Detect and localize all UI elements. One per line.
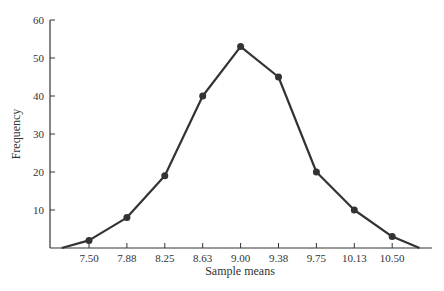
y-tick-label: 60	[33, 14, 45, 26]
x-tick-label: 7.88	[117, 252, 137, 264]
y-tick-label: 50	[33, 52, 45, 64]
data-point-marker	[86, 237, 93, 244]
data-point-marker	[275, 74, 282, 81]
x-tick-label: 10.13	[342, 252, 367, 264]
x-tick-label: 8.63	[193, 252, 213, 264]
data-point-marker	[237, 43, 244, 50]
x-tick-label: 10.50	[380, 252, 405, 264]
x-tick-label: 9.75	[307, 252, 327, 264]
data-point-marker	[313, 169, 320, 176]
y-tick-label: 10	[33, 204, 45, 216]
y-tick-label: 30	[33, 128, 45, 140]
x-tick-label: 9.00	[231, 252, 251, 264]
x-tick-label: 7.50	[79, 252, 99, 264]
frequency-polygon-chart: 102030405060 7.507.888.258.639.009.389.7…	[0, 0, 444, 291]
y-tick-label: 20	[33, 166, 45, 178]
frequency-line	[62, 47, 420, 248]
data-point-marker	[123, 214, 130, 221]
x-tick-label: 8.25	[155, 252, 175, 264]
x-tick-label: 9.38	[269, 252, 289, 264]
y-axis: 102030405060	[33, 14, 55, 248]
data-point-marker	[389, 233, 396, 240]
x-axis-label: Sample means	[205, 264, 275, 278]
data-point-marker	[161, 172, 168, 179]
x-axis: 7.507.888.258.639.009.389.7510.1310.50	[50, 243, 432, 264]
data-point-marker	[351, 207, 358, 214]
y-tick-label: 40	[33, 90, 45, 102]
series-frequency	[62, 43, 420, 248]
y-axis-label: Frequency	[9, 109, 23, 160]
data-point-marker	[199, 93, 206, 100]
